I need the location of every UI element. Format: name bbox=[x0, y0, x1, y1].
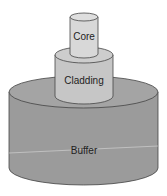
core-label: Core bbox=[73, 31, 95, 42]
cladding-label: Cladding bbox=[64, 75, 103, 86]
fiber-diagram: Buffer Cladding Core bbox=[0, 0, 167, 196]
buffer-label: Buffer bbox=[71, 145, 98, 156]
core-layer: Core bbox=[70, 13, 98, 58]
